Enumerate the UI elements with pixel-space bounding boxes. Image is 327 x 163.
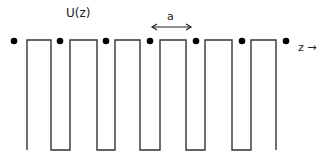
periodic-potential-diagram — [0, 0, 327, 163]
period-label: a — [167, 10, 174, 23]
lattice-dot — [193, 38, 200, 45]
lattice-points — [11, 38, 290, 45]
lattice-dot — [11, 38, 18, 45]
z-axis-label: z → — [298, 41, 317, 54]
potential-label: U(z) — [66, 6, 90, 20]
lattice-dot — [239, 38, 246, 45]
square-wave-potential — [27, 40, 276, 150]
lattice-dot — [103, 38, 110, 45]
lattice-dot — [147, 38, 154, 45]
period-arrow-icon — [152, 24, 191, 30]
lattice-dot — [57, 38, 64, 45]
lattice-dot — [283, 38, 290, 45]
